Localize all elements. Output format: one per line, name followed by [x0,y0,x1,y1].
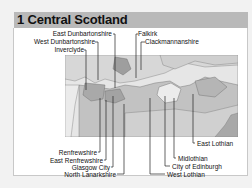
label-clackmannanshire: Clackmannanshire [145,38,199,45]
label-north-lanarkshire: North Lanarkshire [64,171,116,178]
label-falkirk: Falkirk [138,30,157,37]
label-glasgow-city: Glasgow City [72,164,110,171]
label-renfrewshire: Renfrewshire [59,149,97,156]
label-east-renfrewshire: East Renfrewshire [50,157,103,164]
leader-lines [0,0,252,188]
label-east-dunbartonshire: East Dunbartonshire [53,30,112,37]
label-inverclyde: Inverclyde [54,46,84,53]
label-west-lothian: West Lothian [167,171,205,178]
label-west-dunbartonshire: West Dunbartonshire [34,38,95,45]
label-east-lothian: East Lothian [197,140,233,147]
label-midlothian: Midlothian [178,155,208,162]
label-city-of-edinburgh: City of Edinburgh [172,163,222,170]
